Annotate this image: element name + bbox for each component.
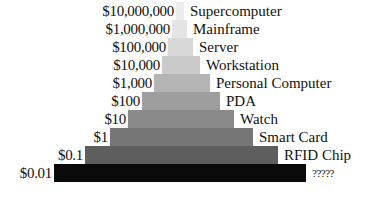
bar-personal-computer <box>154 74 210 92</box>
device-label: Workstation <box>206 56 279 74</box>
price-label: $1,000,000 <box>105 20 170 38</box>
device-label: Server <box>199 38 238 56</box>
bar-rfid-chip <box>85 146 278 164</box>
bar-unknown <box>54 164 306 182</box>
price-label: $0.1 <box>58 146 83 164</box>
price-label: $100,000 <box>112 38 166 56</box>
device-label: Watch <box>240 110 278 128</box>
bar-supercomputer <box>176 2 184 20</box>
device-label: ????? <box>312 164 334 182</box>
device-label: Personal Computer <box>216 74 331 92</box>
device-label: Smart Card <box>259 128 328 146</box>
price-label: $1,000 <box>113 74 152 92</box>
bar-watch <box>128 110 234 128</box>
device-label: Supercomputer <box>190 2 282 20</box>
bar-server <box>168 38 193 56</box>
bar-workstation <box>162 56 200 74</box>
price-label: $10,000 <box>113 56 160 74</box>
price-label: $10,000,000 <box>102 2 174 20</box>
price-label: $10 <box>104 110 126 128</box>
bar-pda <box>142 92 220 110</box>
price-label: $1 <box>94 128 108 146</box>
bar-smart-card <box>110 128 253 146</box>
price-label: $100 <box>111 92 140 110</box>
price-label: $0.01 <box>20 164 52 182</box>
device-label: RFID Chip <box>284 146 351 164</box>
device-label: Mainframe <box>193 20 260 38</box>
device-label: PDA <box>226 92 256 110</box>
bar-mainframe <box>172 20 187 38</box>
pyramid-chart: $10,000,000 $1,000,000 $100,000 $10,000 … <box>0 0 370 197</box>
